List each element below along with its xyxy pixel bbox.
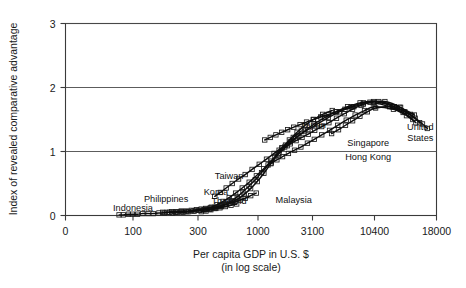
ytick-label-1: 1: [50, 146, 56, 158]
annotation-singapore: Singapore: [347, 138, 389, 148]
annotation-hong-kong: Hong Kong: [345, 152, 391, 162]
annotation-thailand: Thailand: [211, 196, 246, 206]
annotation-united-states: United: [407, 122, 434, 132]
annotation-indonesia: Indonesia: [113, 203, 154, 213]
xtick-label-1000: 1000: [246, 225, 270, 237]
ytick-label-0: 0: [50, 210, 56, 222]
annotation-japan: Japan: [301, 120, 326, 130]
xtick-label-18000: 18000: [422, 225, 451, 237]
horizontal-gridlines: [66, 24, 437, 152]
y-axis-title: Index of revealed comparative advantage: [7, 23, 19, 216]
ytick-label-2: 2: [50, 82, 56, 94]
trend-curve-taiwan: [215, 101, 415, 196]
scatter-plot-svg: 0100300100031001040018000 0123 Indonesia…: [0, 0, 466, 288]
ytick-label-3: 3: [50, 18, 56, 30]
x-axis-tick-labels: 0100300100031001040018000: [63, 225, 452, 237]
xtick-label-100: 100: [124, 225, 142, 237]
x-axis-title: Per capita GDP in U.S. $: [193, 248, 309, 260]
x-axis-subtitle: (in log scale): [221, 261, 281, 273]
annotation-united-states: States: [407, 133, 433, 143]
annotation-taiwan: Taiwan: [215, 171, 244, 181]
y-axis-tick-labels: 0123: [50, 18, 56, 222]
xtick-label-3100: 3100: [301, 225, 325, 237]
annotation-korea: Korea: [204, 187, 229, 197]
chart-figure: 0100300100031001040018000 0123 Indonesia…: [0, 0, 466, 288]
xtick-label-300: 300: [189, 225, 207, 237]
annotation-malaysia: Malaysia: [276, 195, 313, 205]
xtick-label-10400: 10400: [360, 225, 389, 237]
annotation-philippines: Philippines: [144, 194, 189, 204]
xtick-label-0: 0: [63, 225, 69, 237]
